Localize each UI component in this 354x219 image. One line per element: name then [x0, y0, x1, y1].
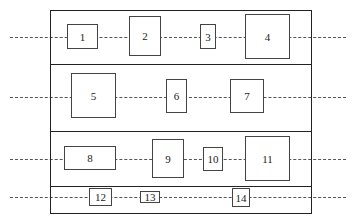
block-label: 7: [244, 90, 250, 102]
block-label: 8: [87, 152, 93, 164]
block-label: 1: [80, 31, 86, 43]
block-6: 6: [166, 79, 187, 113]
block-label: 2: [142, 30, 148, 42]
block-label: 6: [174, 90, 180, 102]
block-diagram: 1234567891011121314: [0, 0, 354, 219]
block-3: 3: [200, 24, 216, 49]
block-label: 3: [205, 31, 211, 43]
block-13: 13: [140, 191, 160, 203]
row-divider: [50, 186, 312, 187]
block-label: 12: [95, 191, 106, 203]
block-label: 10: [208, 153, 219, 165]
block-9: 9: [152, 139, 184, 178]
block-10: 10: [203, 147, 223, 171]
block-5: 5: [71, 73, 116, 118]
block-label: 14: [236, 192, 247, 204]
block-7: 7: [230, 79, 264, 113]
block-12: 12: [89, 188, 112, 206]
block-8: 8: [64, 146, 116, 170]
block-label: 13: [145, 191, 156, 203]
block-label: 4: [265, 31, 271, 43]
block-label: 5: [91, 90, 97, 102]
block-label: 9: [165, 153, 171, 165]
block-1: 1: [67, 24, 98, 49]
row-divider: [50, 131, 312, 132]
block-2: 2: [129, 16, 161, 56]
row-divider: [50, 64, 312, 65]
block-label: 11: [262, 153, 273, 165]
block-14: 14: [232, 188, 250, 207]
block-4: 4: [245, 14, 290, 59]
block-11: 11: [245, 136, 290, 181]
